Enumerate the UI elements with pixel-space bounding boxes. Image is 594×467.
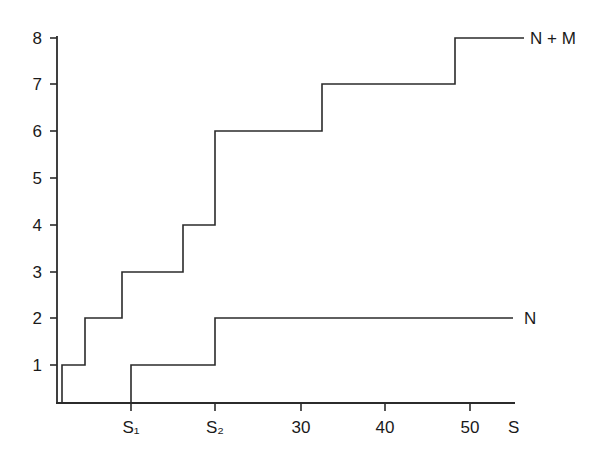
series-label-n: N — [524, 310, 536, 327]
series-label-n-plus-m: N + M — [530, 30, 576, 47]
x-tick-label-50: 50 — [450, 419, 490, 436]
y-tick-label-3: 3 — [10, 264, 42, 281]
y-tick-label-7: 7 — [10, 76, 42, 93]
y-tick-label-1: 1 — [10, 357, 42, 374]
y-tick-label-8: 8 — [10, 30, 42, 47]
x-tick-label-s2: S₂ — [195, 419, 235, 436]
x-axis-label: S — [508, 419, 519, 436]
y-tick-label-2: 2 — [10, 310, 42, 327]
series-n-plus-m-line — [62, 38, 524, 403]
series-n-line — [131, 318, 513, 403]
y-tick-label-6: 6 — [10, 123, 42, 140]
step-chart: 8 7 6 5 4 3 2 1 S₁ S₂ 30 40 50 S N + M N — [0, 0, 594, 467]
chart-plot-area — [0, 0, 594, 467]
series-group — [62, 38, 524, 403]
x-tick-label-40: 40 — [365, 419, 405, 436]
axes-group — [50, 36, 515, 411]
x-tick-label-s1: S₁ — [111, 419, 151, 436]
y-tick-label-4: 4 — [10, 217, 42, 234]
x-tick-label-30: 30 — [281, 419, 321, 436]
y-tick-label-5: 5 — [10, 170, 42, 187]
